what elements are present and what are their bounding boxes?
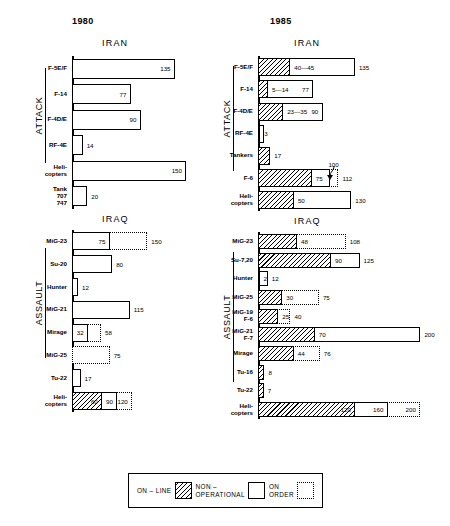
row-label-line: Heli- xyxy=(206,402,253,409)
legend-label-line1: NON – xyxy=(196,483,245,491)
dotted-square-icon xyxy=(297,482,314,499)
row-label: Tu-22 xyxy=(206,386,253,393)
legend-item-label: ONORDER xyxy=(269,483,294,498)
bar-value-label: 125 xyxy=(364,257,374,264)
bar-segment-online xyxy=(258,365,264,380)
row-label-line: Tu-22 xyxy=(206,386,253,393)
bar-value-label: 120 xyxy=(341,406,351,413)
bar-value-label: 200 xyxy=(424,331,434,338)
legend-label-line2: OPERATIONAL xyxy=(196,491,245,499)
chart-page: 1980 1985 IRANATTACKF-5E/F135F-1477F-4D/… xyxy=(0,0,450,526)
row-label-line: Hunter xyxy=(206,274,253,281)
bar-value-label: 2 xyxy=(264,275,267,282)
bar-value-label: 7 xyxy=(268,387,271,394)
bar-segment-online xyxy=(258,327,315,342)
row-label: MiG-25 xyxy=(206,293,253,300)
row-label-line: copters xyxy=(206,409,253,416)
row-label-line: Mirage xyxy=(206,349,253,356)
bar-segment-online xyxy=(258,253,331,268)
legend-item-onorder: ONORDER xyxy=(269,482,314,499)
row-label-line: F-6 xyxy=(206,315,253,322)
bar-value-label: 8 xyxy=(268,369,271,376)
bar-value-label: 200 xyxy=(406,406,416,413)
row-label: Mirage xyxy=(206,349,253,356)
legend-item-online: ON – LINE xyxy=(137,482,192,499)
bar-value-label: 25 xyxy=(282,313,289,320)
legend-label-line1: ON – LINE xyxy=(137,487,172,495)
bar-value-label: 12 xyxy=(272,275,279,282)
row-label-line: F-7 xyxy=(206,334,253,341)
bar-segment-online xyxy=(258,290,282,305)
bar-segment-online xyxy=(258,346,294,361)
row-label-line: MiG-23 xyxy=(206,237,253,244)
row-label: Tu-16 xyxy=(206,368,253,375)
bar-value-label: 44 xyxy=(298,350,305,357)
chart-legend: ON – LINENON –OPERATIONALONORDER xyxy=(128,473,323,508)
row-label-line: MiG-21 xyxy=(206,327,253,334)
row-label-line: MiG-19 xyxy=(206,308,253,315)
row-label-line: Tu-16 xyxy=(206,368,253,375)
legend-item-label: ON – LINE xyxy=(137,487,172,495)
bar-value-label: 30 xyxy=(286,294,293,301)
row-label-line: Su-7,20 xyxy=(206,256,253,263)
panel-1985-iraq: IRAQASSAULTMiG-2348108Su-7,2090125Hunter… xyxy=(0,0,450,526)
legend-item-label: NON –OPERATIONAL xyxy=(196,483,245,498)
legend-items: ON – LINENON –OPERATIONALONORDER xyxy=(129,474,322,507)
legend-item-nonoperational: NON –OPERATIONAL xyxy=(196,482,265,499)
bar-segment-online xyxy=(258,271,260,286)
hatched-square-icon xyxy=(175,482,192,499)
row-label: Heli-copters xyxy=(206,402,253,416)
bar-value-label: 108 xyxy=(350,238,360,245)
row-label-line: MiG-25 xyxy=(206,293,253,300)
legend-label-line2: ORDER xyxy=(269,491,294,499)
row-label: MiG-23 xyxy=(206,237,253,244)
outline-square-icon xyxy=(248,482,265,499)
bar-value-label: 40 xyxy=(294,313,301,320)
row-label: MiG-19F-6 xyxy=(206,308,253,322)
row-label: Hunter xyxy=(206,274,253,281)
bar-segment-online xyxy=(258,309,278,324)
row-label: Su-7,20 xyxy=(206,256,253,263)
bar-value-label: 48 xyxy=(301,238,308,245)
bar-value-label: 76 xyxy=(324,350,331,357)
row-label: MiG-21F-7 xyxy=(206,327,253,341)
bar-segment-online xyxy=(258,234,297,249)
bar-value-label: 90 xyxy=(335,257,342,264)
bar-segment-online xyxy=(258,383,264,398)
bar-value-label: 75 xyxy=(323,294,330,301)
bar-value-label: 160 xyxy=(373,406,383,413)
panel-country-title: IRAQ xyxy=(294,216,321,226)
legend-label-line1: ON xyxy=(269,483,294,491)
bar-value-label: 70 xyxy=(319,331,326,338)
